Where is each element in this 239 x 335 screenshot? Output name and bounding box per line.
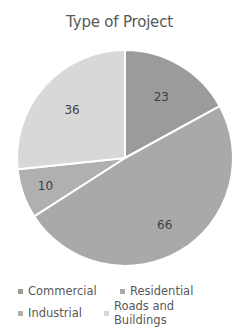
legend-swatch-industrial: [18, 311, 23, 316]
legend-item-residential: Residential: [120, 284, 193, 298]
legend-label-industrial: Industrial: [28, 306, 82, 320]
legend-swatch-roads-and-buildings: [104, 311, 109, 316]
data-label-commercial: 23: [154, 90, 169, 104]
pie-slices: [17, 50, 233, 266]
legend-row-2: Industrial Roads and Buildings: [18, 302, 233, 324]
data-label-roads-and-buildings: 36: [64, 103, 79, 117]
data-label-industrial: 10: [38, 179, 53, 193]
legend-item-roads-and-buildings: Roads and Buildings: [104, 299, 219, 327]
legend-item-industrial: Industrial: [18, 306, 90, 320]
legend-swatch-commercial: [18, 289, 23, 294]
data-label-residential: 66: [157, 218, 172, 232]
legend-label-residential: Residential: [130, 284, 193, 298]
legend-item-commercial: Commercial: [18, 284, 106, 298]
legend-label-roads-and-buildings: Roads and Buildings: [114, 299, 219, 327]
legend-swatch-residential: [120, 289, 125, 294]
chart-legend: Commercial Residential Industrial Roads …: [18, 280, 233, 324]
legend-label-commercial: Commercial: [28, 284, 97, 298]
